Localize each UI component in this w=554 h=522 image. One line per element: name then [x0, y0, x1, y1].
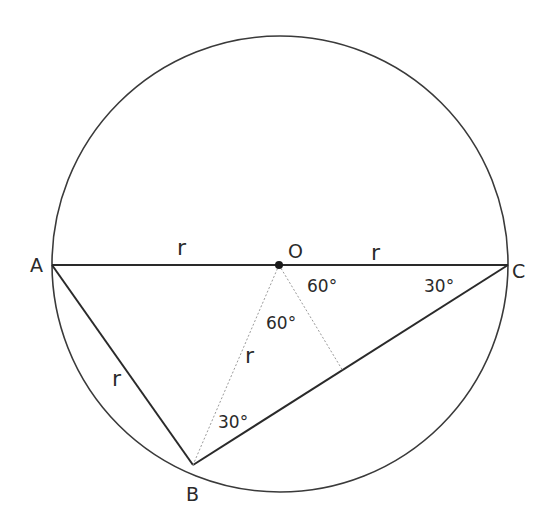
radius-ob-dotted	[193, 265, 279, 465]
label-angle-cod: 60°	[307, 276, 337, 296]
center-point-o	[275, 261, 283, 269]
label-angle-obc: 30°	[218, 412, 248, 432]
label-angle-ocb: 30°	[424, 276, 454, 296]
geometry-diagram: A O C B r r r r 60° 60° 30° 30°	[0, 0, 554, 522]
point-label-b: B	[186, 483, 199, 505]
label-r-ob: r	[245, 343, 255, 368]
label-angle-dob: 60°	[266, 313, 296, 333]
chord-ab	[52, 265, 193, 465]
point-label-c: C	[512, 260, 525, 282]
label-r-ao: r	[177, 235, 187, 260]
label-r-ab: r	[112, 366, 122, 391]
label-r-oc: r	[371, 240, 381, 265]
point-label-o: O	[288, 240, 303, 262]
chord-bc	[193, 265, 508, 465]
point-label-a: A	[30, 254, 43, 276]
